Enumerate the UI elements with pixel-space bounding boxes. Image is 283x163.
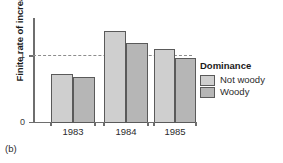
x-tick-label-1983: 1983 — [62, 126, 83, 137]
y-tick-0: 0 — [29, 122, 34, 124]
legend-swatch-not-woody — [200, 75, 215, 86]
x-tick-1983-left — [50, 122, 52, 126]
bar-1984-not-woody — [104, 31, 126, 124]
legend-label-woody: Woody — [220, 87, 249, 97]
y-axis-line — [33, 18, 35, 123]
y-axis-title: Finite rate of increase — [14, 0, 25, 89]
bar-1983-not-woody — [51, 74, 73, 123]
figure-caption: (b) — [5, 143, 17, 154]
legend-item-not-woody: Not woody — [200, 74, 282, 86]
bar-1984-woody — [126, 43, 148, 123]
x-tick-1985-right — [195, 122, 197, 126]
legend-title: Dominance — [200, 60, 282, 71]
x-tick-label-1984: 1984 — [115, 126, 136, 137]
legend-label-not-woody: Not woody — [220, 75, 265, 85]
figure-panel-b: Finite rate of increase 0 1 1983 1984 — [0, 0, 283, 163]
legend-swatch-woody — [200, 87, 215, 98]
x-tick-1985-left — [153, 122, 155, 126]
plot-area: 0 1 1983 1984 1985 — [33, 18, 192, 123]
bar-1985-woody — [175, 58, 196, 124]
x-tick-1984-right — [147, 122, 149, 126]
bar-1985-not-woody — [154, 49, 175, 123]
x-tick-label-1985: 1985 — [164, 126, 185, 137]
legend-item-woody: Woody — [200, 86, 282, 98]
y-tick-label-0: 0 — [20, 117, 25, 126]
x-tick-1983-right — [94, 122, 96, 126]
legend: Dominance Not woody Woody — [200, 60, 282, 98]
bar-1983-woody — [73, 77, 95, 123]
x-tick-1984-left — [103, 122, 105, 126]
y-tick-label-1: 1 — [20, 51, 25, 60]
